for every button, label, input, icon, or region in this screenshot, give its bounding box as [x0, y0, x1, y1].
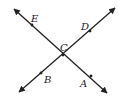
point-a: [90, 75, 93, 78]
point-b: [40, 72, 43, 75]
diagram-canvas: EDCBA: [0, 0, 124, 101]
point-e: [31, 24, 34, 27]
label-c: C: [60, 42, 68, 53]
point-c: [62, 54, 65, 57]
label-a: A: [79, 78, 87, 89]
label-d: D: [80, 21, 89, 32]
label-e: E: [30, 13, 39, 24]
label-b: B: [43, 74, 51, 85]
